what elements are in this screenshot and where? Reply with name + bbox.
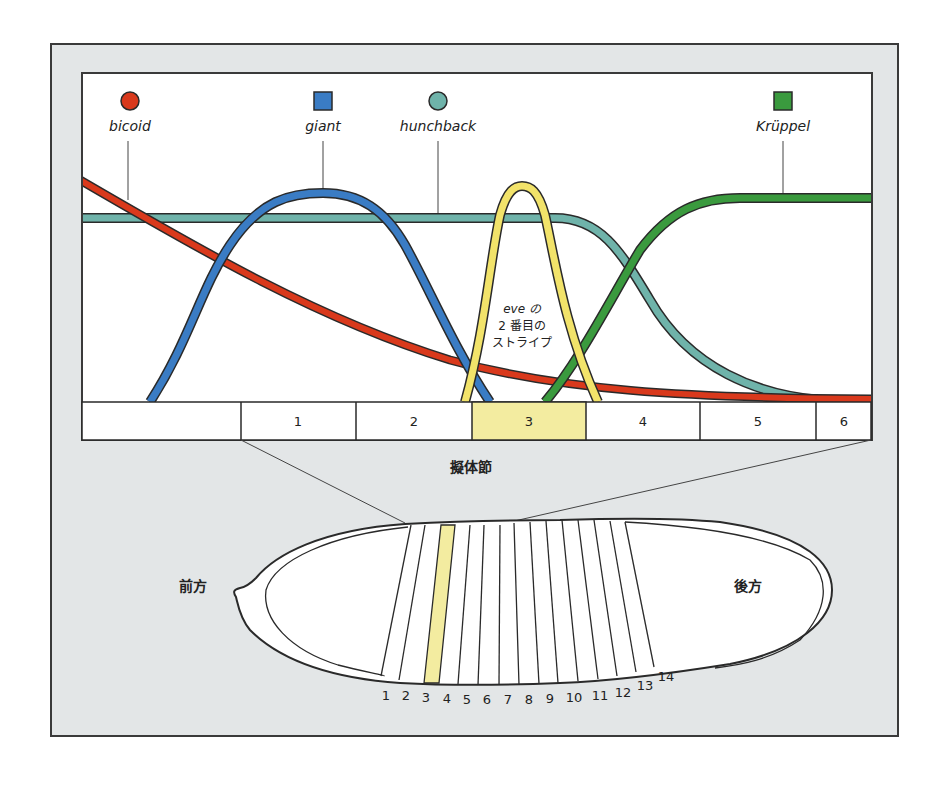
bicoid-label: bicoid (109, 118, 151, 134)
giant-label: giant (305, 118, 341, 134)
parasegment-title: 擬体節 (450, 459, 492, 475)
svg-text:14: 14 (658, 669, 675, 684)
svg-text:4: 4 (443, 691, 451, 706)
eve-label-line2: 2 番目の (498, 319, 545, 333)
svg-text:3: 3 (422, 690, 430, 705)
parasegment-row: 1 2 3 4 5 6 (82, 402, 871, 440)
svg-text:5: 5 (463, 692, 471, 707)
giant-curve (150, 193, 490, 402)
zoom-line-left (241, 440, 405, 523)
svg-text:10: 10 (566, 690, 583, 705)
parasegment-label-2: 2 (410, 414, 418, 429)
svg-text:1: 1 (382, 688, 390, 703)
anterior-label: 前方 (179, 578, 207, 594)
svg-text:6: 6 (483, 692, 491, 707)
parasegment-label-4: 4 (639, 414, 647, 429)
parasegment-label-1: 1 (294, 414, 302, 429)
eve-annotation: eve の 2 番目の ストライプ (492, 302, 552, 350)
parasegment-label-6: 6 (840, 414, 848, 429)
legend: bicoid giant hunchback Krüppel (109, 92, 810, 214)
embryo: 1 2 3 4 5 6 7 8 9 10 11 12 13 14 (234, 519, 832, 707)
svg-text:7: 7 (504, 692, 512, 707)
svg-text:12: 12 (615, 685, 632, 700)
svg-text:9: 9 (546, 691, 554, 706)
eve-label-line1: eve の (503, 302, 542, 316)
kruppel-legend-icon (774, 92, 792, 110)
parasegment-label-5: 5 (754, 414, 762, 429)
posterior-label: 後方 (734, 578, 762, 594)
diagram-canvas: bicoid giant hunchback Krüppel (0, 0, 942, 791)
svg-text:8: 8 (525, 692, 533, 707)
svg-text:11: 11 (592, 688, 609, 703)
hunchback-label: hunchback (400, 118, 477, 134)
parasegment-label-3: 3 (525, 414, 533, 429)
bicoid-legend-icon (121, 92, 139, 110)
svg-text:13: 13 (637, 678, 654, 693)
hunchback-legend-icon (429, 92, 447, 110)
kruppel-label: Krüppel (756, 118, 810, 134)
giant-legend-icon (314, 92, 332, 110)
svg-text:2: 2 (402, 688, 410, 703)
zoom-line-right (510, 440, 871, 522)
eve-label-line3: ストライプ (492, 336, 552, 350)
expression-curves (80, 180, 875, 402)
